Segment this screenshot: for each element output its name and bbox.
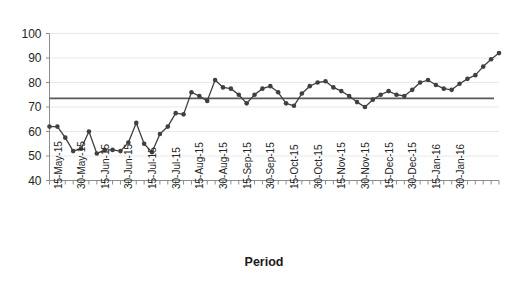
x-axis-tick-label: 30-Nov-15 (361, 142, 371, 189)
x-axis-tick-label: 15-Aug-15 (195, 142, 205, 189)
gridlines (50, 34, 500, 157)
x-axis-tick-label: 30-Jul-15 (172, 147, 182, 189)
x-axis-tick-label: 15-Jul-15 (148, 147, 158, 189)
x-axis-tick-label: 15-Sep-15 (243, 142, 253, 189)
x-axis-tick-label: 15-May-15 (54, 141, 64, 189)
chart-container: 405060708090100 15-May-1530-May-1515-Jun… (0, 0, 528, 285)
x-axis-tick-label: 30-Jun-15 (124, 143, 134, 188)
x-axis-tick-label: 30-Dec-15 (408, 142, 418, 189)
x-axis-title: Period (0, 255, 528, 269)
x-axis-tick-label: 30-Jan-16 (456, 143, 466, 188)
x-axis-tick-label: 15-Jun-15 (101, 143, 111, 188)
x-axis-tick-label: 15-Oct-15 (290, 144, 300, 188)
x-axis-tick-label: 30-Aug-15 (219, 142, 229, 189)
data-series-markers (47, 51, 501, 156)
x-axis-tick-label: 15-Nov-15 (337, 142, 347, 189)
x-axis-tick-label: 15-Jan-16 (432, 143, 442, 188)
data-series-line (50, 53, 500, 153)
x-axis-tick-label: 30-Oct-15 (314, 144, 324, 188)
x-axis-tick-label: 30-May-15 (77, 141, 87, 189)
x-axis-tick-label: 30-Sep-15 (266, 142, 276, 189)
y-axis-ticks (46, 34, 50, 181)
x-axis-tick-label: 15-Dec-15 (385, 142, 395, 189)
